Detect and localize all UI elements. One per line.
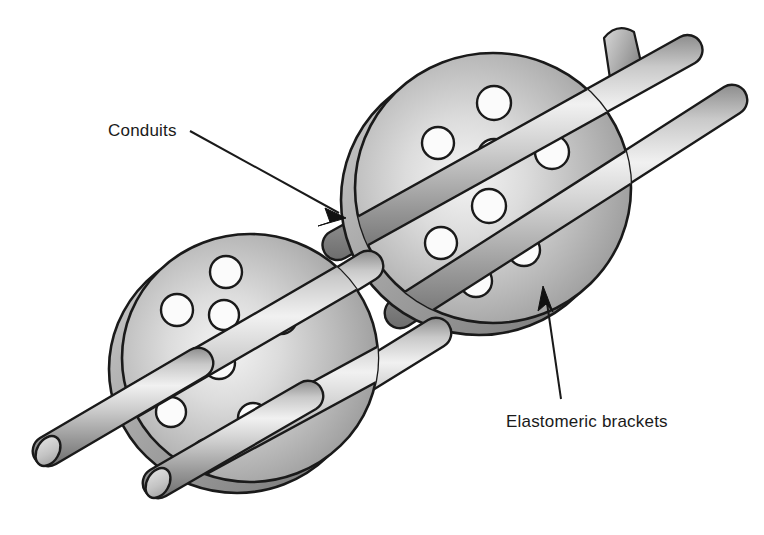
bracket-hole [161,294,193,326]
bracket-hole [422,127,454,159]
elastomeric-brackets-label: Elastomeric brackets [506,412,668,431]
bracket-hole [472,189,506,223]
technical-diagram: Conduits Elastomeric brackets [0,0,764,535]
conduit-bracket-illustration: Conduits Elastomeric brackets [0,0,764,535]
conduits-label: Conduits [108,121,177,140]
bracket-hole [425,227,457,259]
bracket-hole [477,86,511,120]
bracket-hole [210,256,242,288]
